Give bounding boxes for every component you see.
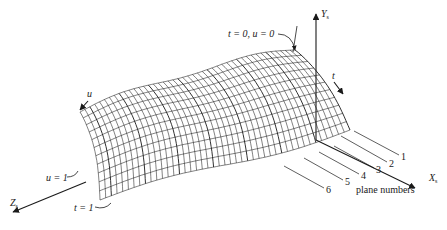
wireframe-surface-diagram [0, 0, 447, 230]
plane-number-4: 4 [361, 170, 366, 181]
plane-number-leaders [284, 131, 399, 188]
plane-number-3: 3 [376, 164, 381, 175]
plane-number-6: 6 [326, 184, 331, 195]
u-end-leader [67, 171, 78, 177]
z-axis-label: Zs [10, 197, 18, 209]
x-axis-label: Xs [429, 172, 437, 184]
plane-5-leader [304, 158, 343, 180]
plane-6-leader [284, 166, 324, 188]
plane-numbers-caption: plane numbers [356, 184, 415, 195]
plane-number-1: 1 [401, 151, 406, 162]
t-parameter-label: t [332, 70, 335, 81]
plane-3-leader [334, 146, 374, 168]
origin-corner-leader [278, 34, 295, 50]
plane-1-leader [354, 131, 399, 155]
u-parameter-label: u [87, 88, 92, 99]
origin-corner-label: t = 0, u = 0 [228, 28, 274, 39]
plane-4-leader [319, 152, 359, 174]
coordinate-axes [13, 14, 415, 212]
t-direction-arrow [334, 82, 343, 94]
surface-mesh [80, 50, 350, 200]
t-end-leader [95, 203, 111, 208]
u-end-label: u = 1 [46, 172, 68, 183]
plane-number-2: 2 [389, 158, 394, 169]
plane-number-5: 5 [345, 176, 350, 187]
y-axis-label: Ys [321, 8, 329, 20]
t-end-label: t = 1 [74, 202, 94, 213]
plane-2-leader [341, 136, 387, 162]
